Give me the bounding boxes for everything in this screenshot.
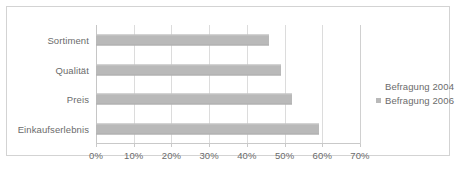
tick-mark	[285, 144, 286, 147]
chart-legend: Befragung 2004Befragung 2006	[376, 81, 454, 106]
gridline-70pct	[360, 25, 361, 144]
legend-label: Befragung 2004	[385, 81, 454, 92]
x-axis-tick-label: 20%	[162, 150, 181, 161]
x-axis-tick-label: 10%	[124, 150, 143, 161]
category-label-preis: Preis	[67, 94, 89, 105]
legend-swatch-icon	[376, 98, 381, 103]
category-label-sortiment: Sortiment	[47, 34, 89, 45]
bar-row: Sortiment	[96, 25, 360, 55]
bar-sortiment	[96, 34, 269, 45]
legend-label: Befragung 2006	[385, 95, 454, 106]
tick-mark	[209, 144, 210, 147]
legend-swatch-icon	[376, 84, 381, 89]
x-axis-line	[96, 143, 360, 144]
tick-mark	[247, 144, 248, 147]
x-axis-tick-label: 50%	[275, 150, 294, 161]
bar-preis	[96, 94, 292, 105]
legend-item-2: Befragung 2006	[376, 95, 454, 106]
x-axis-tick-label: 30%	[199, 150, 218, 161]
bar-row: Qualität	[96, 55, 360, 85]
x-axis-tick-label: 70%	[350, 150, 369, 161]
category-label-qualit-t: Qualität	[55, 64, 89, 75]
tick-mark	[134, 144, 135, 147]
tick-mark	[96, 144, 97, 147]
bar-einkaufserlebnis	[96, 124, 319, 135]
bar-qualit-t	[96, 64, 281, 75]
x-axis-tick-label: 0%	[89, 150, 103, 161]
x-axis-tick-label: 60%	[313, 150, 332, 161]
legend-item-1: Befragung 2004	[376, 81, 454, 92]
bar-row: Einkaufserlebnis	[96, 114, 360, 144]
chart-frame: 0%10%20%30%40%50%60%70% SortimentQualitä…	[6, 6, 450, 156]
category-label-einkaufserlebnis: Einkaufserlebnis	[18, 124, 89, 135]
tick-mark	[360, 144, 361, 147]
x-axis-tick-label: 40%	[237, 150, 256, 161]
plot-area: 0%10%20%30%40%50%60%70% SortimentQualitä…	[96, 25, 360, 144]
bar-row: Preis	[96, 85, 360, 115]
tick-mark	[171, 144, 172, 147]
tick-mark	[322, 144, 323, 147]
